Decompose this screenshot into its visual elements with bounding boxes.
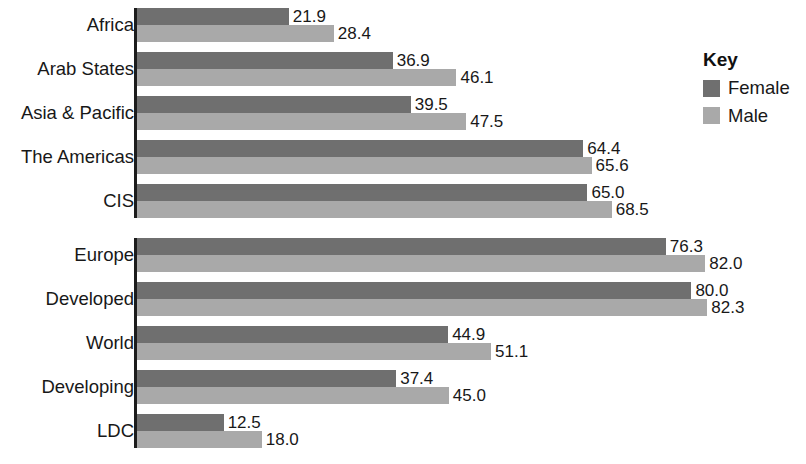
bar-female[interactable]: [137, 326, 448, 343]
chart-legend: Key Female Male: [703, 50, 806, 134]
bar-group: CIS65.068.5: [0, 184, 806, 218]
legend-item-male[interactable]: Male: [703, 107, 806, 126]
bar-value-label: 44.9: [448, 326, 485, 343]
legend-label-male: Male: [728, 107, 768, 126]
bar-male[interactable]: [137, 299, 707, 316]
bar-value-label: 36.9: [393, 52, 430, 69]
bar-value-label: 28.4: [334, 25, 371, 42]
bar-male[interactable]: [137, 157, 592, 174]
category-label: Arab States: [0, 60, 134, 79]
bar-female[interactable]: [137, 370, 396, 387]
legend-item-female[interactable]: Female: [703, 79, 806, 98]
bar-male[interactable]: [137, 343, 491, 360]
axis-line-segment-2: [134, 238, 137, 448]
bar-male[interactable]: [137, 387, 449, 404]
bar-group: Africa21.928.4: [0, 8, 806, 42]
bar-female[interactable]: [137, 414, 224, 431]
bar-female[interactable]: [137, 140, 583, 157]
bar-value-label: 39.5: [411, 96, 448, 113]
category-label: World: [0, 334, 134, 353]
bar-value-label: 64.4: [583, 140, 620, 157]
bar-value-label: 65.0: [587, 184, 624, 201]
bar-male[interactable]: [137, 431, 262, 448]
bar-group: Developed80.082.3: [0, 282, 806, 316]
bar-male[interactable]: [137, 201, 612, 218]
bar-male[interactable]: [137, 25, 334, 42]
category-label: CIS: [0, 192, 134, 211]
bar-group: LDC12.518.0: [0, 414, 806, 448]
grouped-bar-chart: Africa21.928.4Arab States36.946.1Asia & …: [0, 0, 806, 464]
category-label: The Americas: [0, 148, 134, 167]
bar-female[interactable]: [137, 96, 411, 113]
bar-value-label: 12.5: [224, 414, 261, 431]
bar-male[interactable]: [137, 113, 466, 130]
category-label: Developed: [0, 290, 134, 309]
category-label: Developing: [0, 378, 134, 397]
bar-group: World44.951.1: [0, 326, 806, 360]
legend-label-female: Female: [728, 79, 790, 98]
bar-value-label: 47.5: [466, 113, 503, 130]
plot-area: Africa21.928.4Arab States36.946.1Asia & …: [0, 0, 806, 464]
bar-group: Developing37.445.0: [0, 370, 806, 404]
bar-female[interactable]: [137, 238, 666, 255]
bar-male[interactable]: [137, 69, 456, 86]
bar-group: Europe76.382.0: [0, 238, 806, 272]
bar-female[interactable]: [137, 282, 691, 299]
category-label: Africa: [0, 16, 134, 35]
bar-female[interactable]: [137, 8, 289, 25]
bar-value-label: 18.0: [262, 431, 299, 448]
bar-value-label: 65.6: [592, 157, 629, 174]
bar-value-label: 68.5: [612, 201, 649, 218]
axis-line-segment-1: [134, 8, 137, 218]
bar-value-label: 37.4: [396, 370, 433, 387]
bar-value-label: 46.1: [456, 69, 493, 86]
category-label: LDC: [0, 422, 134, 441]
bar-value-label: 76.3: [666, 238, 703, 255]
bar-value-label: 51.1: [491, 343, 528, 360]
bar-female[interactable]: [137, 52, 393, 69]
bar-value-label: 82.0: [705, 255, 742, 272]
bar-value-label: 82.3: [707, 299, 744, 316]
category-label: Asia & Pacific: [0, 104, 134, 123]
legend-title: Key: [703, 50, 806, 69]
bar-group: The Americas64.465.6: [0, 140, 806, 174]
legend-swatch-male-icon: [703, 107, 720, 124]
category-label: Europe: [0, 246, 134, 265]
bar-group: Arab States36.946.1: [0, 52, 806, 86]
bar-male[interactable]: [137, 255, 705, 272]
legend-swatch-female-icon: [703, 80, 720, 97]
bar-female[interactable]: [137, 184, 587, 201]
bar-group: Asia & Pacific39.547.5: [0, 96, 806, 130]
bar-value-label: 45.0: [449, 387, 486, 404]
bar-value-label: 21.9: [289, 8, 326, 25]
bar-value-label: 80.0: [691, 282, 728, 299]
